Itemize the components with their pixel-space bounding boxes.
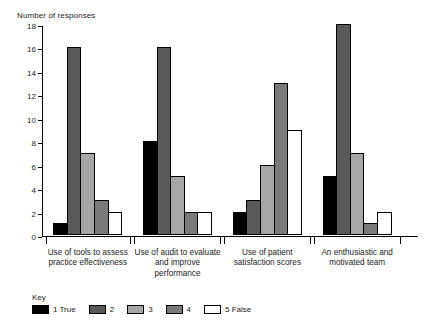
category-label: Use of tools to assess practice effectiv… xyxy=(40,248,136,269)
category-axis-segment xyxy=(314,237,401,244)
category-label: Use of patient satisfaction scores xyxy=(219,248,315,269)
legend-label: 5 False xyxy=(225,305,251,314)
bar xyxy=(94,200,109,235)
y-tick-mark xyxy=(38,96,42,97)
legend-swatch-icon xyxy=(32,305,49,314)
y-tick-label: 14 xyxy=(27,68,36,77)
bar xyxy=(108,212,123,235)
bar-group xyxy=(233,26,306,235)
bar xyxy=(260,165,275,235)
bar xyxy=(363,223,378,235)
y-tick-mark xyxy=(38,73,42,74)
bar-group xyxy=(323,26,396,235)
y-tick-label: 8 xyxy=(32,139,36,148)
category-axis-segment xyxy=(134,237,221,244)
bar xyxy=(184,212,199,235)
bar xyxy=(67,47,82,235)
legend-item[interactable]: 3 xyxy=(127,305,152,314)
legend-label: 4 xyxy=(187,305,191,314)
y-tick-label: 10 xyxy=(27,115,36,124)
category-labels: Use of tools to assess practice effectiv… xyxy=(42,248,419,288)
y-tick-mark xyxy=(38,214,42,215)
bar xyxy=(170,176,185,235)
legend: Key 1 True2345 False xyxy=(32,293,264,314)
bar-group xyxy=(143,26,216,235)
bar xyxy=(350,153,365,235)
bar-groups xyxy=(44,26,418,235)
bar xyxy=(143,141,158,235)
y-tick-mark xyxy=(38,120,42,121)
bar xyxy=(287,130,302,236)
bar xyxy=(157,47,172,235)
legend-swatch-icon xyxy=(166,305,183,314)
legend-items: 1 True2345 False xyxy=(32,305,264,314)
bar xyxy=(233,212,248,235)
plot-wrapper: 024681012141618 xyxy=(42,26,418,237)
y-tick-label: 18 xyxy=(27,22,36,31)
y-tick-label: 16 xyxy=(27,45,36,54)
category-axis-segment xyxy=(46,237,131,244)
category-label: An enthusiastic and motivated team xyxy=(309,248,405,269)
y-tick-label: 0 xyxy=(32,233,36,242)
bar xyxy=(246,200,261,235)
category-label: Use of audit to evaluate and improve per… xyxy=(130,248,226,279)
category-axis xyxy=(42,237,419,244)
bar xyxy=(377,212,392,235)
category-axis-segment xyxy=(224,237,311,244)
legend-item[interactable]: 2 xyxy=(89,305,114,314)
bar xyxy=(80,153,95,235)
y-tick-mark xyxy=(38,190,42,191)
bar-chart-figure: Number of responses 024681012141618 Use … xyxy=(0,0,430,334)
legend-label: 2 xyxy=(110,305,114,314)
bar xyxy=(53,223,68,235)
legend-swatch-icon xyxy=(204,305,221,314)
y-tick-mark xyxy=(38,143,42,144)
bar-group xyxy=(53,26,126,235)
bar xyxy=(274,83,289,235)
legend-label: 1 True xyxy=(53,305,76,314)
y-tick-label: 6 xyxy=(32,162,36,171)
y-tick-mark xyxy=(38,26,42,27)
y-tick-mark xyxy=(38,49,42,50)
plot-area xyxy=(42,26,418,237)
legend-item[interactable]: 4 xyxy=(166,305,191,314)
legend-swatch-icon xyxy=(89,305,106,314)
legend-item[interactable]: 1 True xyxy=(32,305,76,314)
y-tick-mark xyxy=(38,167,42,168)
y-tick-label: 2 xyxy=(32,209,36,218)
legend-label: 3 xyxy=(148,305,152,314)
bar xyxy=(336,24,351,235)
y-tick-label: 4 xyxy=(32,186,36,195)
legend-item[interactable]: 5 False xyxy=(204,305,251,314)
bar xyxy=(197,212,212,235)
legend-title: Key xyxy=(32,293,264,302)
y-axis-title: Number of responses xyxy=(17,11,95,20)
y-tick-label: 12 xyxy=(27,92,36,101)
bar xyxy=(323,176,338,235)
legend-swatch-icon xyxy=(127,305,144,314)
